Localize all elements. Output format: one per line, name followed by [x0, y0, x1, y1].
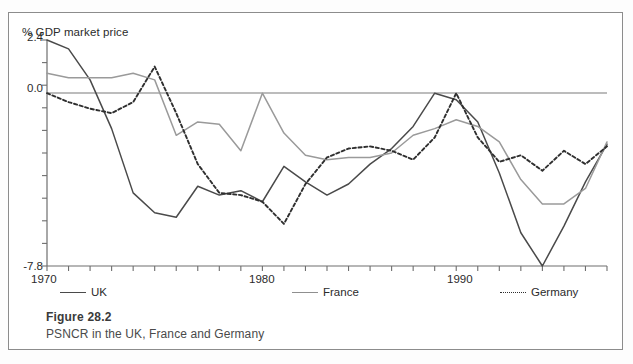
- chart-series-group: [47, 40, 607, 266]
- legend-item-uk: UK: [60, 286, 107, 298]
- legend-item-germany: Germany: [500, 286, 578, 298]
- x-axis-ticks: [47, 266, 607, 271]
- legend-swatch-france-icon: [292, 292, 318, 293]
- legend-label-france: France: [323, 286, 359, 298]
- x-tick-label-1970: 1970: [31, 273, 57, 285]
- legend-label-uk: UK: [91, 286, 107, 298]
- legend-label-germany: Germany: [531, 286, 578, 298]
- figure-caption-text: PSNCR in the UK, France and Germany: [46, 327, 264, 341]
- y-axis-ticks: [42, 40, 47, 266]
- chart-plot-area: % GDP market price 2.4 0.0 -7.8 1970 198…: [0, 0, 633, 364]
- figure-caption: Figure 28.2 PSNCR in the UK, France and …: [46, 310, 264, 341]
- legend-swatch-germany-icon: [500, 292, 526, 293]
- x-tick-label-1990: 1990: [447, 273, 473, 285]
- y-tick-label-top: 2.4: [3, 31, 43, 43]
- y-tick-label-zero: 0.0: [3, 82, 43, 94]
- legend-item-france: France: [292, 286, 359, 298]
- x-tick-label-1980: 1980: [249, 273, 275, 285]
- series-line-germany: [47, 67, 607, 224]
- y-tick-label-bottom: -7.8: [3, 260, 43, 272]
- figure-root: % GDP market price 2.4 0.0 -7.8 1970 198…: [0, 0, 633, 364]
- legend-swatch-uk-icon: [60, 292, 86, 293]
- figure-number: Figure 28.2: [46, 310, 264, 324]
